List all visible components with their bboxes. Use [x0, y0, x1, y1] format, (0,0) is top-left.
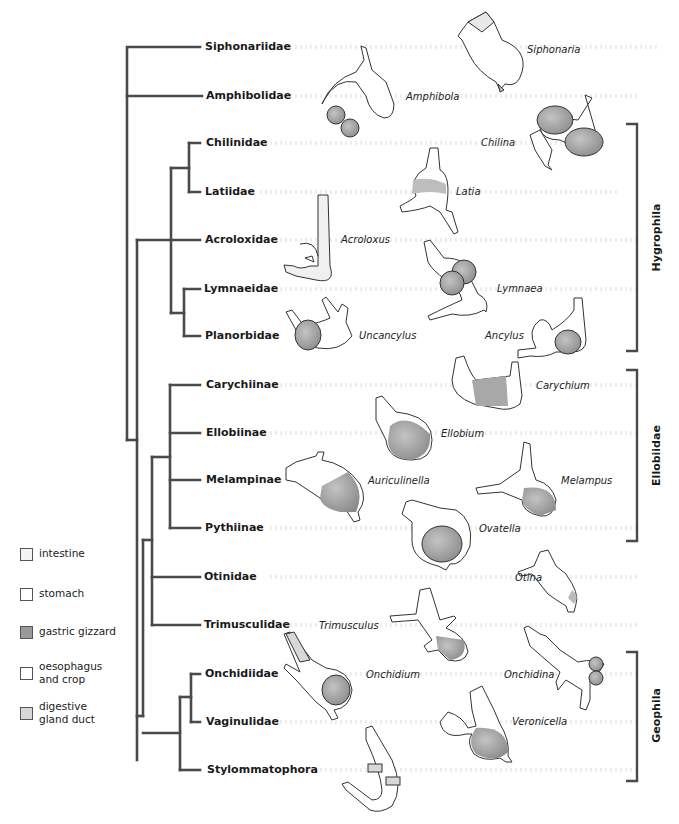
- legend-digestive-gland-duct: digestivegland duct: [20, 700, 95, 726]
- legend-oesophagus-crop: oesophagusand crop: [20, 660, 102, 686]
- genus-ovatella: Ovatella: [479, 523, 521, 535]
- genus-melampus: Melampus: [561, 475, 612, 487]
- legend-label: digestivegland duct: [39, 700, 95, 726]
- stomach-drawings: [284, 12, 604, 811]
- bracket-hygrophila: [626, 124, 637, 351]
- legend-label: oesophagusand crop: [39, 660, 102, 686]
- genus-lymnaea: Lymnaea: [497, 283, 543, 295]
- taxon-otinidae: Otinidae: [204, 570, 257, 584]
- taxon-latiidae: Latiidae: [205, 185, 255, 199]
- genus-chilina: Chilina: [481, 137, 515, 149]
- genus-onchidium: Onchidium: [366, 669, 420, 681]
- ancylus-drawing: [518, 298, 586, 358]
- genus-siphonaria: Siphonaria: [527, 44, 580, 56]
- auriculinella-drawing: [286, 452, 364, 522]
- phylogeny-figure: Siphonariidae Amphibolidae Chilinidae La…: [0, 0, 679, 824]
- genus-carychium: Carychium: [536, 380, 590, 392]
- taxon-onchidiidae: Onchidiidae: [205, 667, 278, 681]
- genus-ellobium: Ellobium: [441, 428, 484, 440]
- taxon-lymnaeidae: Lymnaeidae: [204, 282, 278, 296]
- taxon-stylommatophora: Stylommatophora: [207, 763, 318, 777]
- latia-drawing: [400, 148, 458, 234]
- intestine-swatch: [20, 548, 33, 561]
- taxon-pythiinae: Pythiinae: [205, 521, 264, 535]
- legend-stomach: stomach: [20, 587, 84, 601]
- taxon-amphibolidae: Amphibolidae: [206, 89, 291, 103]
- ovatella-drawing: [402, 500, 471, 570]
- ellobium-drawing: [376, 396, 432, 460]
- genus-veronicella: Veronicella: [512, 716, 567, 728]
- taxon-acroloxidae: Acroloxidae: [205, 233, 278, 247]
- genus-acroloxus: Acroloxus: [341, 234, 390, 246]
- taxon-vaginulidae: Vaginulidae: [206, 715, 279, 729]
- genus-auriculinella: Auriculinella: [368, 475, 430, 487]
- phylogenetic-tree: [0, 0, 679, 824]
- legend-intestine: intestine: [20, 547, 85, 561]
- taxon-melampinae: Melampinae: [206, 473, 281, 487]
- legend-gastric-gizzard: gastric gizzard: [20, 625, 116, 639]
- oesophagus-swatch: [20, 667, 33, 680]
- onchidium-drawing: [284, 632, 352, 720]
- carychium-drawing: [452, 356, 522, 409]
- legend-label: stomach: [39, 587, 84, 600]
- legend-label: intestine: [39, 547, 85, 560]
- lymnaea-drawing: [424, 240, 487, 320]
- taxon-ellobiinae: Ellobiinae: [206, 426, 267, 440]
- genus-latia: Latia: [456, 186, 481, 198]
- acroloxus-drawing: [284, 195, 331, 281]
- bracket-geophila: [626, 652, 637, 781]
- tree-branches: [127, 47, 202, 770]
- bracket-ellobiidae: [626, 370, 637, 541]
- clade-ellobiidae: Ellobiidae: [650, 416, 663, 496]
- clade-geophila: Geophila: [650, 676, 663, 756]
- legend-label: gastric gizzard: [39, 625, 116, 638]
- gland-duct-swatch: [20, 707, 33, 720]
- siphonaria-drawing: [458, 12, 523, 92]
- clade-brackets: [626, 124, 637, 781]
- taxon-trimusculidae: Trimusculidae: [204, 618, 290, 632]
- taxon-chilinidae: Chilinidae: [206, 136, 268, 150]
- amphibola-drawing: [322, 46, 394, 137]
- clade-hygrophila: Hygrophila: [650, 198, 663, 278]
- chilina-drawing: [530, 95, 603, 170]
- taxon-siphonariidae: Siphonariidae: [205, 40, 291, 54]
- stomach-swatch: [20, 588, 33, 601]
- genus-otina: Otina: [515, 572, 542, 584]
- uncancylus-drawing: [286, 297, 352, 350]
- onchidina-drawing: [524, 626, 604, 710]
- genus-ancylus: Ancylus: [485, 330, 524, 342]
- genus-onchidina: Onchidina: [504, 669, 554, 681]
- taxon-carychiinae: Carychiinae: [206, 378, 279, 392]
- genus-uncancylus: Uncancylus: [359, 330, 416, 342]
- melampus-drawing: [476, 442, 556, 516]
- genus-amphibola: Amphibola: [406, 91, 459, 103]
- gizzard-swatch: [20, 626, 33, 639]
- taxon-planorbidae: Planorbidae: [205, 329, 279, 343]
- genus-trimusculus: Trimusculus: [319, 620, 379, 632]
